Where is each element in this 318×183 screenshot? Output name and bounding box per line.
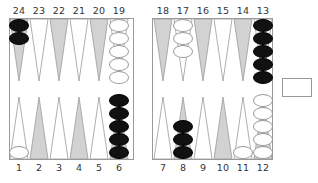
side-box[interactable] xyxy=(282,78,312,97)
checker-black[interactable] xyxy=(109,133,129,146)
point-label-14: 14 xyxy=(233,5,253,16)
point-label-11: 11 xyxy=(233,162,253,173)
checker-black[interactable] xyxy=(253,19,273,32)
checker-white[interactable] xyxy=(173,19,193,32)
point-label-18: 18 xyxy=(153,5,173,16)
point-label-24: 24 xyxy=(9,5,29,16)
point-16[interactable] xyxy=(193,19,213,81)
point-20[interactable] xyxy=(89,19,109,81)
checker-white[interactable] xyxy=(9,146,29,159)
point-triangle-icon xyxy=(193,19,213,81)
point-5[interactable] xyxy=(89,97,109,159)
checker-white[interactable] xyxy=(173,45,193,58)
bar[interactable] xyxy=(133,18,153,160)
checker-white[interactable] xyxy=(109,45,129,58)
point-label-8: 8 xyxy=(173,162,193,173)
point-triangle-icon xyxy=(213,19,233,81)
point-10[interactable] xyxy=(213,97,233,159)
checker-black[interactable] xyxy=(109,146,129,159)
point-label-7: 7 xyxy=(153,162,173,173)
point-label-12: 12 xyxy=(253,162,273,173)
point-label-6: 6 xyxy=(109,162,129,173)
point-label-13: 13 xyxy=(253,5,273,16)
point-18[interactable] xyxy=(153,19,173,81)
checker-black[interactable] xyxy=(173,120,193,133)
checker-black[interactable] xyxy=(253,58,273,71)
point-triangle-icon xyxy=(29,97,49,159)
point-label-15: 15 xyxy=(213,5,233,16)
checker-white[interactable] xyxy=(173,32,193,45)
checker-white[interactable] xyxy=(253,94,273,107)
checker-black[interactable] xyxy=(109,120,129,133)
point-triangle-icon xyxy=(69,97,89,159)
point-triangle-icon xyxy=(213,97,233,159)
point-4[interactable] xyxy=(69,97,89,159)
point-triangle-icon xyxy=(89,19,109,81)
point-triangle-icon xyxy=(49,19,69,81)
point-7[interactable] xyxy=(153,97,173,159)
checker-black[interactable] xyxy=(173,133,193,146)
point-3[interactable] xyxy=(49,97,69,159)
point-triangle-icon xyxy=(89,97,109,159)
checker-white[interactable] xyxy=(109,71,129,84)
checker-black[interactable] xyxy=(253,45,273,58)
point-9[interactable] xyxy=(193,97,213,159)
point-triangle-icon xyxy=(233,19,253,81)
point-triangle-icon xyxy=(153,19,173,81)
point-22[interactable] xyxy=(49,19,69,81)
checker-white[interactable] xyxy=(109,32,129,45)
point-label-3: 3 xyxy=(49,162,69,173)
point-label-5: 5 xyxy=(89,162,109,173)
point-label-19: 19 xyxy=(109,5,129,16)
point-label-10: 10 xyxy=(213,162,233,173)
point-label-22: 22 xyxy=(49,5,69,16)
point-triangle-icon xyxy=(153,97,173,159)
checker-black[interactable] xyxy=(109,94,129,107)
point-2[interactable] xyxy=(29,97,49,159)
point-label-23: 23 xyxy=(29,5,49,16)
checker-black[interactable] xyxy=(9,32,29,45)
point-label-17: 17 xyxy=(173,5,193,16)
point-label-4: 4 xyxy=(69,162,89,173)
checker-white[interactable] xyxy=(253,107,273,120)
point-label-1: 1 xyxy=(9,162,29,173)
checker-black[interactable] xyxy=(253,71,273,84)
checker-white[interactable] xyxy=(253,146,273,159)
point-label-21: 21 xyxy=(69,5,89,16)
point-triangle-icon xyxy=(29,19,49,81)
point-label-16: 16 xyxy=(193,5,213,16)
point-15[interactable] xyxy=(213,19,233,81)
point-triangle-icon xyxy=(193,97,213,159)
point-label-9: 9 xyxy=(193,162,213,173)
point-triangle-icon xyxy=(69,19,89,81)
point-label-20: 20 xyxy=(89,5,109,16)
point-23[interactable] xyxy=(29,19,49,81)
point-triangle-icon xyxy=(49,97,69,159)
point-14[interactable] xyxy=(233,19,253,81)
point-label-2: 2 xyxy=(29,162,49,173)
checker-white[interactable] xyxy=(253,120,273,133)
checker-black[interactable] xyxy=(109,107,129,120)
point-21[interactable] xyxy=(69,19,89,81)
checker-white[interactable] xyxy=(233,146,253,159)
checker-black[interactable] xyxy=(253,32,273,45)
checker-white[interactable] xyxy=(253,133,273,146)
checker-white[interactable] xyxy=(109,58,129,71)
checker-black[interactable] xyxy=(9,19,29,32)
checker-white[interactable] xyxy=(109,19,129,32)
checker-black[interactable] xyxy=(173,146,193,159)
